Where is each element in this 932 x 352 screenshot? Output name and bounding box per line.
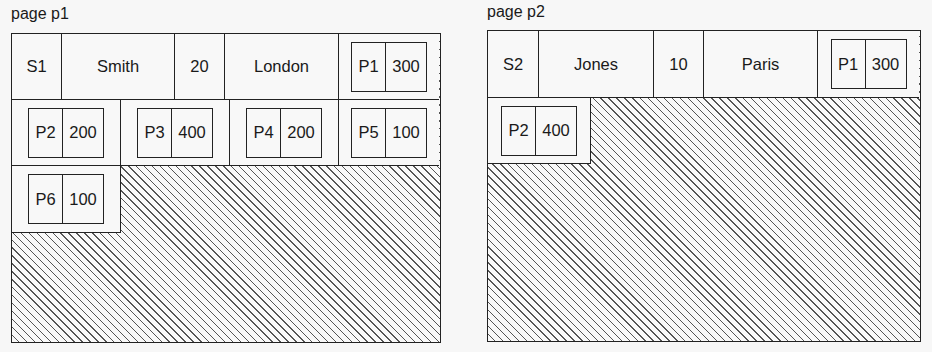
supplier-city: Paris bbox=[742, 55, 780, 74]
part-entry-cell: P4 200 bbox=[230, 100, 339, 166]
part-entry: P2 200 bbox=[28, 108, 104, 158]
part-pno: P2 bbox=[29, 109, 63, 157]
part-entry-cell: P3 400 bbox=[121, 100, 230, 166]
page-p1: S1 Smith 20 London P1 300 P2 200 P3 400 … bbox=[11, 33, 441, 343]
part-entry: P2 400 bbox=[501, 106, 577, 156]
supplier-sno-cell: S1 bbox=[12, 34, 62, 100]
supplier-status-cell: 20 bbox=[175, 34, 225, 100]
supplier-sno: S2 bbox=[503, 55, 523, 74]
part-entry-cell: P2 200 bbox=[12, 100, 121, 166]
part-entry: P6 100 bbox=[28, 174, 104, 224]
supplier-status-cell: 10 bbox=[654, 31, 704, 98]
part-entry: P4 200 bbox=[246, 108, 322, 158]
part-pno: P4 bbox=[247, 109, 281, 157]
page-p2: S2 Jones 10 Paris P1 300 P2 400 bbox=[487, 30, 921, 342]
page-p1-label: page p1 bbox=[11, 6, 69, 22]
supplier-sname: Smith bbox=[97, 57, 139, 76]
part-qty: 200 bbox=[63, 109, 103, 157]
part-entry-cell: P6 100 bbox=[12, 166, 121, 233]
part-pno: P1 bbox=[352, 43, 386, 91]
part-entry: P3 400 bbox=[137, 108, 213, 158]
part-qty: 300 bbox=[386, 43, 426, 91]
part-entry-cell: P1 300 bbox=[339, 34, 439, 100]
supplier-sname: Jones bbox=[574, 55, 618, 74]
part-qty: 100 bbox=[386, 109, 426, 157]
supplier-status: 20 bbox=[190, 57, 208, 76]
part-pno: P2 bbox=[502, 107, 536, 155]
supplier-sname-cell: Smith bbox=[62, 34, 175, 100]
part-pno: P5 bbox=[352, 109, 386, 157]
part-qty: 400 bbox=[536, 107, 576, 155]
part-pno: P3 bbox=[138, 109, 172, 157]
supplier-city: London bbox=[254, 57, 309, 76]
part-entry-cell: P5 100 bbox=[339, 100, 439, 166]
part-entry: P5 100 bbox=[351, 108, 427, 158]
part-qty: 100 bbox=[63, 175, 103, 223]
supplier-sno-cell: S2 bbox=[488, 31, 539, 98]
part-entry: P1 300 bbox=[351, 42, 427, 92]
part-pno: P6 bbox=[29, 175, 63, 223]
supplier-status: 10 bbox=[669, 55, 687, 74]
part-qty: 200 bbox=[281, 109, 321, 157]
part-qty: 300 bbox=[866, 40, 906, 88]
supplier-city-cell: London bbox=[225, 34, 339, 100]
supplier-sname-cell: Jones bbox=[539, 31, 654, 98]
part-entry-cell: P2 400 bbox=[488, 98, 591, 164]
part-entry: P1 300 bbox=[831, 39, 907, 89]
page-p2-label: page p2 bbox=[487, 4, 545, 20]
supplier-city-cell: Paris bbox=[704, 31, 818, 98]
part-entry-cell: P1 300 bbox=[818, 31, 919, 98]
supplier-sno: S1 bbox=[26, 57, 46, 76]
part-pno: P1 bbox=[832, 40, 866, 88]
part-qty: 400 bbox=[172, 109, 212, 157]
